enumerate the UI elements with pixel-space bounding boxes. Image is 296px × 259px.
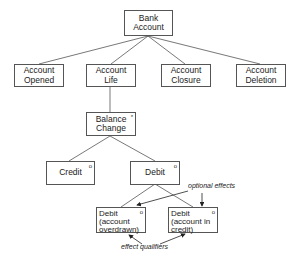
node-balance-change: Balance Change * <box>86 112 136 136</box>
node-credit: Credit o <box>46 161 95 185</box>
node-bank-account: Bank Account <box>124 10 173 36</box>
node-label: Balance Change <box>96 115 127 134</box>
node-label: Account Opened <box>24 66 55 85</box>
selection-marker: o <box>89 163 92 169</box>
node-account-deletion: Account Deletion <box>236 64 286 87</box>
node-label: Debit <box>145 168 165 178</box>
node-label: Account Deletion <box>245 66 276 85</box>
annotation-effect-qualifiers: effect qualifiers <box>121 243 168 250</box>
selection-marker: o <box>140 209 143 215</box>
node-account-opened: Account Opened <box>14 64 64 87</box>
node-label: Debit (account overdrawn) <box>99 210 139 234</box>
node-label: Credit <box>59 168 82 178</box>
diagram-canvas: Bank Account Account Opened Account Life… <box>0 0 296 259</box>
node-debit-account-in-credit: Debit (account in credit) o <box>168 207 218 233</box>
node-label: Account Closure <box>171 66 202 85</box>
node-label: Debit (account in credit) <box>171 210 210 234</box>
node-debit-account-overdrawn: Debit (account overdrawn) o <box>96 207 146 233</box>
node-account-life: Account Life <box>86 64 136 87</box>
selection-marker: o <box>174 163 177 169</box>
annotation-optional-effects: optional effects <box>188 182 235 189</box>
selection-marker: o <box>212 209 215 215</box>
node-label: Account Life <box>96 66 127 85</box>
node-label: Bank Account <box>133 14 164 33</box>
node-debit: Debit o <box>130 161 180 185</box>
connector-lines <box>0 0 296 259</box>
node-account-closure: Account Closure <box>161 64 211 87</box>
iteration-marker: * <box>131 114 133 120</box>
